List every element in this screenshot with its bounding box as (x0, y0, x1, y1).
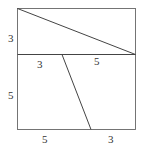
label-mid-right: 5 (94, 55, 100, 67)
label-bottom-right: 3 (108, 133, 114, 145)
label-left-bottom: 5 (8, 89, 14, 101)
geometry-figure: 3 3 5 5 5 3 (0, 0, 143, 153)
outer-square (18, 9, 136, 130)
label-bottom-left: 5 (42, 133, 48, 145)
slanted-line (62, 55, 91, 130)
diagonal-line (18, 9, 136, 55)
label-left-top: 3 (8, 32, 14, 44)
label-mid-left: 3 (37, 58, 43, 70)
